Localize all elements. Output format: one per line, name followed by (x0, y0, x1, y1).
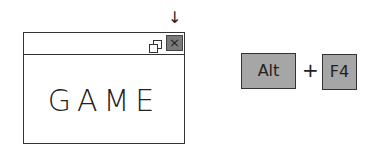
f4-key: F4 (322, 54, 357, 90)
restore-icon[interactable] (149, 40, 162, 53)
pointer-arrow-icon: ↓ (168, 10, 181, 26)
close-button[interactable]: × (166, 35, 183, 51)
window-content-text: GAME (24, 83, 184, 118)
alt-key: Alt (241, 53, 296, 89)
title-bar: × (24, 33, 184, 55)
plus-sign: + (302, 58, 319, 82)
game-window: × GAME (23, 32, 185, 144)
